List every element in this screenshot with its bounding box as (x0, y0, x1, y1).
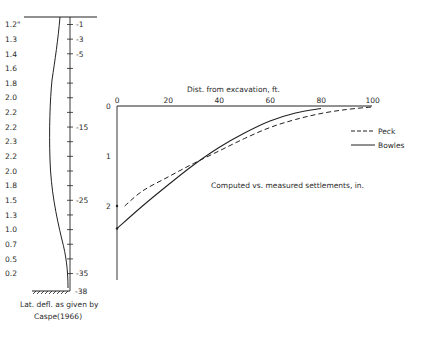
deflection-label: 2.2 (5, 123, 17, 132)
x-tick-label: 20 (164, 96, 174, 105)
measured-point-icon (116, 227, 118, 229)
deflection-curve (50, 17, 68, 288)
chart-title: Computed vs. measured settlements, in. (211, 181, 364, 190)
deflection-label: 1.8 (5, 181, 17, 190)
depth-label: -35 (76, 269, 88, 278)
settlement-chart: Dist. from excavation, ft. 020406080100 … (106, 85, 405, 280)
deflection-label: 2.0 (5, 167, 17, 176)
x-axis-title: Dist. from excavation, ft. (187, 85, 280, 94)
y-tick-label: 2 (106, 202, 111, 211)
figure: 1.2"1.31.41.61.82.02.22.22.32.22.01.81.5… (0, 0, 422, 337)
y-tick-label: 1 (106, 152, 111, 161)
x-tick-label: 60 (266, 96, 276, 105)
bowles-curve (117, 109, 321, 229)
deflection-label: 2.2 (5, 108, 17, 117)
x-tick-label: 40 (215, 96, 225, 105)
deflection-label: 2.2 (5, 152, 17, 161)
x-tick-label: 0 (115, 96, 120, 105)
depth-label: -25 (76, 196, 88, 205)
deflection-label: 2.3 (5, 137, 17, 146)
deflection-label: 1.2" (5, 20, 20, 29)
deflection-label: 0.7 (5, 240, 17, 249)
deflection-label: 1.0 (5, 225, 17, 234)
peck-curve (125, 107, 372, 206)
deflection-label: 1.5 (5, 196, 17, 205)
lateral-deflection-diagram: 1.2"1.31.41.61.82.02.22.22.32.22.01.81.5… (5, 17, 99, 321)
y-tick-label: 0 (106, 102, 111, 111)
x-tick-label: 100 (365, 96, 380, 105)
deflection-label: 0.5 (5, 255, 17, 264)
deflection-label: 1.3 (5, 211, 17, 220)
ground-hatch-icon (32, 291, 70, 294)
y-tick-labels: 012 (106, 102, 111, 211)
deflection-label: 2.0 (5, 93, 17, 102)
deflection-labels: 1.2"1.31.41.61.82.02.22.22.32.22.01.81.5… (5, 20, 20, 278)
legend-bowles-label: Bowles (378, 141, 405, 150)
legend-peck-label: Peck (378, 127, 396, 136)
depth-labels: -1-3-5-15-25-35 (76, 20, 88, 278)
x-tick-label: 80 (317, 96, 327, 105)
caption-line-2: Caspe(1966) (34, 312, 82, 321)
deflection-label: 1.8 (5, 79, 17, 88)
legend: Peck Bowles (351, 127, 405, 150)
caption-line-1: Lat. defl. as given by (20, 300, 99, 309)
deflection-label: 1.6 (5, 64, 17, 73)
deflection-label: 1.3 (5, 35, 17, 44)
bottom-depth-label: -38 (75, 287, 87, 296)
depth-label: -3 (76, 35, 84, 44)
depth-label: -15 (76, 123, 88, 132)
x-tick-labels: 020406080100 (115, 96, 380, 105)
deflection-label: 1.4 (5, 50, 17, 59)
depth-label: -5 (76, 50, 84, 59)
depth-label: -1 (76, 20, 84, 29)
deflection-label: 0.2 (5, 269, 17, 278)
measured-point-icon (116, 205, 118, 207)
